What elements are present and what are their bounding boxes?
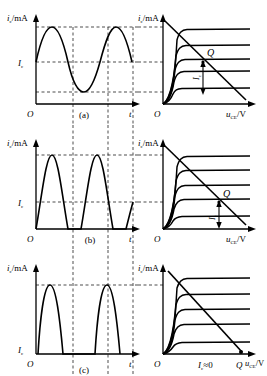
- axis-lines: [36, 145, 136, 229]
- svg-text:Ic: Ic: [208, 214, 218, 221]
- amplitude-arrow-head-down: [216, 222, 221, 229]
- q-point-marker-a: [201, 60, 204, 63]
- chart-b-waveform: ic/mA Ic O t (b): [0, 125, 140, 250]
- output-characteristic-curves-c: [163, 278, 250, 354]
- y-axis-label-b-right: ic/mA: [138, 138, 159, 149]
- gridline-dashed-horizontal: [36, 155, 140, 202]
- waveform-curve-a: [36, 27, 132, 92]
- figure-row-a: ic/mA Ic O t (a): [0, 0, 267, 125]
- caption-c: (c): [79, 365, 89, 375]
- origin-label-c-right: O: [154, 359, 161, 369]
- amplitude-label-b: Ic: [208, 214, 218, 221]
- q-point-label-b: Q: [223, 188, 231, 199]
- y-axis-arrow: [160, 264, 166, 272]
- x-axis-label-b-right: uCE/V: [226, 234, 246, 245]
- x-axis-label-c: t: [129, 359, 132, 369]
- waveform-curve-b: [36, 155, 133, 229]
- amplitude-label-a: Ic: [192, 74, 202, 81]
- axis-lines: [36, 270, 136, 354]
- bias-level-label-a: Ic: [17, 58, 24, 69]
- chart-b-characteristics: Q Ic ic/mA O uCE/V: [138, 125, 267, 250]
- chart-a-characteristics: Q Ic ic/mA O uCE/V: [138, 0, 267, 125]
- bias-level-label-b: Ic: [17, 198, 24, 209]
- q-point-label-a: Q: [207, 47, 215, 58]
- x-axis-label-a: t: [129, 109, 132, 119]
- q-point-marker-b: [217, 200, 220, 203]
- gridline-dashed-vertical: [73, 250, 133, 375]
- y-axis-arrow: [33, 14, 39, 22]
- x-axis-arrow: [248, 226, 256, 232]
- origin-label-a: O: [27, 109, 34, 119]
- chart-a-waveform: ic/mA Ic O t (a): [0, 0, 140, 125]
- gridline-dashed-horizontal: [138, 27, 163, 92]
- origin-label-b-right: O: [154, 234, 161, 244]
- y-axis-arrow: [33, 264, 39, 272]
- origin-label-a-right: O: [154, 109, 161, 119]
- gridline-dashed-horizontal: [138, 155, 163, 202]
- bias-level-label-c: Ic: [17, 345, 24, 356]
- caption-a: (a): [79, 110, 89, 120]
- output-characteristic-curves-b: [163, 156, 250, 229]
- y-axis-label-b: ic/mA: [7, 138, 28, 149]
- x-axis-arrow: [248, 101, 256, 107]
- x-axis-label-c-right: uCE/V: [245, 358, 265, 369]
- svg-text:Ic: Ic: [192, 74, 202, 81]
- figure-row-b: ic/mA Ic O t (b): [0, 125, 267, 250]
- origin-label-c: O: [27, 359, 34, 369]
- caption-b: (b): [85, 235, 96, 245]
- figure-row-c: ic/mA Ic O t (c): [0, 250, 267, 375]
- x-axis-label-b: t: [129, 234, 132, 244]
- gridline-dashed-vertical: [73, 125, 133, 250]
- output-characteristic-curves-a: [163, 29, 250, 104]
- amplitude-arrow-head-down: [200, 88, 205, 95]
- y-axis-arrow: [160, 14, 166, 22]
- y-axis-label-c-right: ic/mA: [138, 263, 159, 274]
- cutoff-annotation-c: Ic≈0: [197, 360, 213, 371]
- x-axis-label-a-right: uCE/V: [226, 109, 246, 120]
- x-axis-arrow: [248, 351, 256, 357]
- y-axis-label-a-right: ic/mA: [138, 13, 159, 24]
- figure-root: ic/mA Ic O t (a): [0, 0, 267, 376]
- y-axis-label-a: ic/mA: [7, 13, 28, 24]
- origin-label-b: O: [27, 234, 34, 244]
- y-axis-label-c: ic/mA: [7, 263, 28, 274]
- q-point-marker-c: [239, 350, 243, 354]
- chart-c-waveform: ic/mA Ic O t (c): [0, 250, 140, 375]
- chart-c-characteristics: Q Ic≈0 ic/mA O uCE/V: [138, 250, 267, 375]
- y-axis-arrow: [33, 139, 39, 147]
- q-point-label-c: Q: [236, 360, 243, 370]
- y-axis-arrow: [160, 139, 166, 147]
